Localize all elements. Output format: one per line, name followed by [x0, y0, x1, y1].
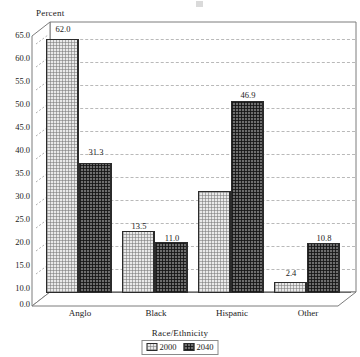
- bar-other-2040: [307, 243, 340, 293]
- gridline: [50, 85, 355, 86]
- legend-label: 2000: [160, 342, 177, 352]
- bar-hispanic-2000: [198, 191, 231, 293]
- gridline: [50, 131, 355, 132]
- y-axis-tick-labels: 65.0 60.0 55.0 50.0 45.0 40.0 35.0 30.0 …: [0, 0, 30, 357]
- y-tick-label: 40.0: [4, 146, 30, 155]
- y-tick-label: 45.0: [4, 123, 30, 132]
- y-tick-label: 65.0: [4, 31, 30, 40]
- bar-value-label: 31.3: [75, 147, 117, 157]
- bar-chart: Percent 65.0 60.0 55.0 50.0 45.0 40.0 35…: [0, 0, 360, 357]
- gridline: [50, 108, 355, 109]
- y-tick-label: 25.0: [4, 215, 30, 224]
- y-tick-label: 0.0: [4, 300, 30, 309]
- y-tick-label: 35.0: [4, 169, 30, 178]
- x-tick-label-black: Black: [116, 308, 196, 318]
- bar-value-label: 62.0: [40, 24, 86, 34]
- bar-anglo-2000: [46, 39, 79, 293]
- legend-label: 2040: [197, 342, 214, 352]
- bar-anglo-2040: [79, 163, 112, 293]
- y-tick-label: 55.0: [4, 77, 30, 86]
- y-axis-title: Percent: [36, 8, 64, 18]
- y-tick-label: 20.0: [4, 238, 30, 247]
- y-tick-label: 10.0: [4, 284, 30, 293]
- y-tick-label: 60.0: [4, 54, 30, 63]
- bar-other-2000: [274, 282, 307, 293]
- light-checker-swatch-icon: [147, 343, 158, 351]
- gridline: [50, 62, 355, 63]
- x-tick-label-anglo: Anglo: [40, 308, 120, 318]
- chart-legend: 2000 2040: [142, 340, 219, 355]
- y-tick-label: 30.0: [4, 192, 30, 201]
- x-axis-title: Race/Ethnicity: [0, 328, 360, 338]
- dark-checker-swatch-icon: [184, 343, 195, 351]
- bar-value-label: 10.8: [303, 233, 345, 243]
- legend-item-2000: 2000: [147, 342, 177, 352]
- bar-value-label: 46.9: [227, 90, 269, 100]
- y-tick-label: 15.0: [4, 261, 30, 270]
- bar-value-label: 13.5: [116, 221, 162, 231]
- x-tick-label-hispanic: Hispanic: [192, 308, 272, 318]
- y-tick-label: 50.0: [4, 100, 30, 109]
- top-artifact-mark: [196, 1, 203, 7]
- bar-hispanic-2040: [231, 101, 264, 293]
- gridline: [50, 39, 355, 40]
- bar-black-2040: [155, 242, 188, 293]
- x-tick-label-other: Other: [268, 308, 348, 318]
- legend-item-2040: 2040: [184, 342, 214, 352]
